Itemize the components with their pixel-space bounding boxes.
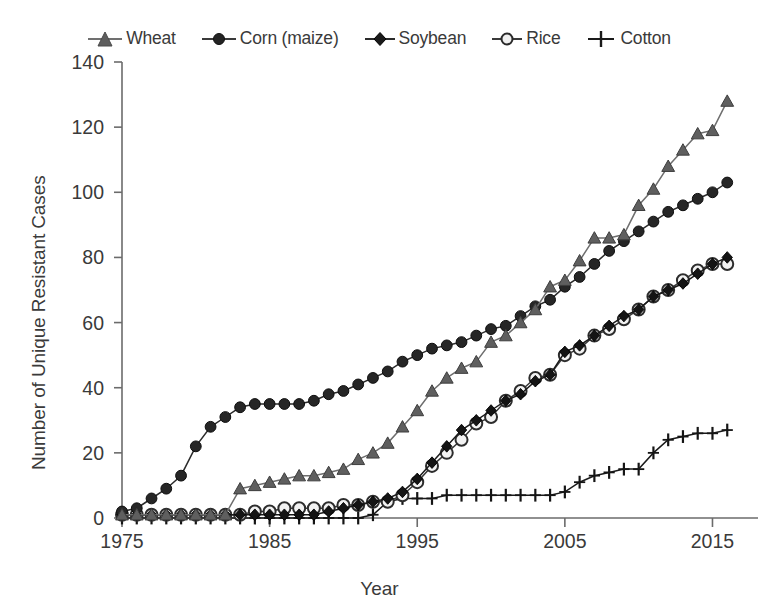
data-point-filled-circle (220, 412, 231, 423)
data-point-triangle (411, 404, 424, 415)
data-point-filled-circle (574, 272, 585, 283)
data-point-filled-circle (161, 483, 172, 494)
data-point-filled-circle (235, 402, 246, 413)
data-point-filled-circle (382, 366, 393, 377)
data-point-filled-circle (707, 187, 718, 198)
data-point-triangle (618, 228, 631, 239)
data-point-filled-circle (456, 337, 467, 348)
series-soybean (117, 252, 733, 521)
resistance-cases-chart-figure: Wheat Corn (maize) Soybean (0, 0, 759, 616)
data-point-triangle (440, 372, 453, 383)
data-point-triangle (455, 362, 468, 373)
data-point-filled-circle (648, 216, 659, 227)
data-point-filled-circle (176, 470, 187, 481)
data-point-filled-circle (663, 206, 674, 217)
data-point-triangle (647, 183, 660, 194)
data-point-triangle (337, 463, 350, 474)
data-point-filled-circle (471, 330, 482, 341)
data-point-filled-circle (190, 441, 201, 452)
data-point-filled-circle (353, 379, 364, 390)
data-point-triangle (721, 95, 734, 106)
series-line-rice (122, 264, 727, 515)
data-point-triangle (470, 355, 483, 366)
data-point-filled-circle (441, 340, 452, 351)
data-point-filled-circle (412, 350, 423, 361)
series-corn-maize (117, 177, 733, 517)
series-line-soybean (122, 257, 727, 514)
data-point-filled-circle (397, 356, 408, 367)
data-point-filled-circle (545, 294, 556, 305)
data-point-filled-circle (368, 373, 379, 384)
data-point-filled-circle (249, 399, 260, 410)
data-point-filled-circle (264, 399, 275, 410)
data-point-filled-circle (633, 226, 644, 237)
plot-area (0, 0, 759, 616)
data-point-filled-circle (589, 259, 600, 270)
data-point-filled-circle (146, 493, 157, 504)
data-point-filled-circle (427, 343, 438, 354)
data-point-filled-circle (338, 386, 349, 397)
data-point-filled-circle (722, 177, 733, 188)
series-rice (116, 258, 733, 521)
data-point-filled-circle (604, 246, 615, 257)
data-point-triangle (706, 124, 719, 135)
data-point-triangle (544, 281, 557, 292)
data-point-triangle (352, 453, 365, 464)
data-point-filled-circle (294, 399, 305, 410)
data-point-filled-circle (309, 395, 320, 406)
data-point-filled-circle (279, 399, 290, 410)
data-point-triangle (558, 274, 571, 285)
data-point-triangle (367, 447, 380, 458)
data-point-triangle (485, 336, 498, 347)
data-point-filled-circle (323, 389, 334, 400)
data-point-filled-circle (205, 421, 216, 432)
data-point-filled-circle (678, 200, 689, 211)
data-point-triangle (573, 254, 586, 265)
data-point-filled-circle (486, 324, 497, 335)
data-point-filled-circle (692, 193, 703, 204)
